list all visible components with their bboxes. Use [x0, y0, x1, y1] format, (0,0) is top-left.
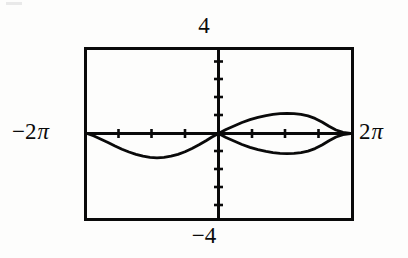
graph-figure: 4 −4 −2π 2π: [0, 0, 408, 258]
x-max-label-number: 2: [359, 119, 371, 144]
plot-canvas: [0, 0, 408, 258]
x-min-label-number: −2: [12, 119, 36, 144]
y-max-label: 4: [0, 14, 408, 37]
pi-symbol-left: π: [36, 119, 49, 144]
scan-artifact-speck: [6, 2, 22, 5]
x-min-label: −2π: [12, 120, 49, 143]
x-max-label: 2π: [359, 120, 383, 143]
y-min-label: −4: [0, 224, 408, 247]
pi-symbol-right: π: [371, 119, 384, 144]
